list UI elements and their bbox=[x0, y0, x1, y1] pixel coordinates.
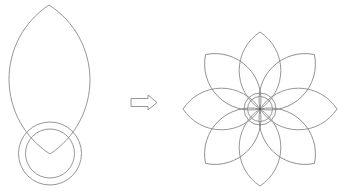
petal-7 bbox=[183, 88, 260, 130]
diagram-canvas bbox=[0, 0, 338, 191]
arrow-right-icon bbox=[131, 95, 157, 110]
petal-3 bbox=[260, 88, 337, 130]
petal-5 bbox=[239, 109, 281, 186]
result-flower bbox=[183, 32, 337, 186]
flower-center-dot bbox=[259, 108, 261, 110]
petal-1 bbox=[239, 32, 281, 109]
source-shape bbox=[9, 5, 90, 185]
source-petal bbox=[9, 5, 90, 154]
